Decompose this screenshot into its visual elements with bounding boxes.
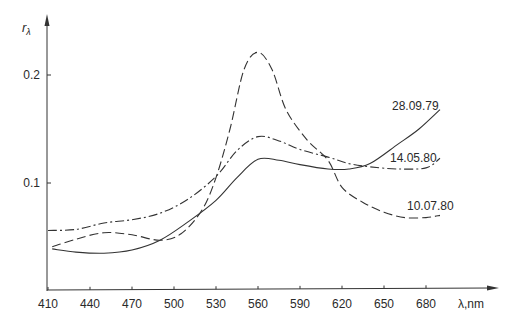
reflectance-chart: 410440470500530560590620650680 0.10.2 28… [0, 0, 516, 326]
x-tick-label: 620 [332, 297, 352, 311]
series-label: 14.05.80 [390, 151, 437, 165]
x-axis [47, 288, 492, 290]
x-tick-label: 440 [80, 297, 100, 311]
series-label: 10.07.80 [407, 199, 454, 213]
x-tick-label: 410 [38, 297, 58, 311]
x-tick-label: 500 [164, 297, 184, 311]
x-axis-label: λ,nm [458, 297, 484, 311]
x-tick-label: 680 [416, 297, 436, 311]
curves [48, 52, 440, 253]
y-tick-label: 0.2 [23, 68, 40, 82]
y-tick-label: 0.1 [23, 176, 40, 190]
curve-28-09-79 [52, 110, 440, 254]
series-labels: 28.09.7914.05.8010.07.80 [390, 99, 454, 213]
x-tick-label: 560 [248, 297, 268, 311]
series-label: 28.09.79 [392, 99, 439, 113]
x-tick-label: 650 [374, 297, 394, 311]
x-tick-label: 590 [290, 297, 310, 311]
x-tick-label: 470 [122, 297, 142, 311]
y-axis-label: rλ [22, 20, 31, 37]
x-axis-arrow-icon [487, 286, 499, 291]
y-axis-arrow-icon [45, 14, 50, 26]
x-tick-label: 530 [206, 297, 226, 311]
curve-10-07-80 [52, 52, 440, 246]
curve-14-05-80 [48, 136, 440, 230]
